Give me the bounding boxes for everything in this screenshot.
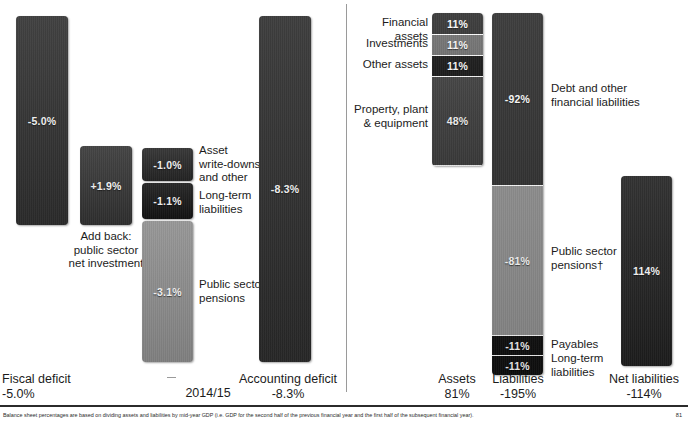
bar-assets[interactable]: 11% 11% 11% 48% <box>432 13 483 166</box>
callout-investments: Investments <box>350 37 428 51</box>
bar-long-term-liabilities-left[interactable]: -1.1% <box>142 183 193 219</box>
axis-label-fiscal-deficit: Fiscal deficit -5.0% <box>2 372 112 402</box>
bar-segment-public-sector-pensions[interactable]: -3.1% <box>142 221 193 362</box>
axis-label-liabilities: Liabilities -195% <box>484 372 552 402</box>
callout-property-plant-equipment: Property, plant & equipment <box>346 103 428 130</box>
bar-value-long-term-liabilities: -1.1% <box>153 195 181 207</box>
bar-net-liabilities[interactable]: 114% <box>621 176 672 366</box>
bar-segment-asset-writedowns[interactable]: -1.0% <box>142 148 193 181</box>
axis-label-period: 2014/15 <box>178 386 238 401</box>
bar-value-financial-assets: 11% <box>447 18 468 30</box>
axis-tick-mark <box>167 377 176 378</box>
bar-segment-net-liabilities[interactable]: 114% <box>621 176 672 366</box>
bar-value-long-term-liabilities-right: -11% <box>505 360 530 372</box>
callout-other-assets: Other assets <box>350 58 428 72</box>
bar-value-net-liabilities: 114% <box>633 265 660 277</box>
panel-divider <box>346 4 347 392</box>
bar-segment-long-term-liabilities[interactable]: -1.1% <box>142 183 193 219</box>
bar-segment-payables[interactable]: -11% <box>492 335 543 355</box>
bar-segment-fiscal-deficit[interactable]: -5.0% <box>16 16 68 225</box>
axis-label-net-liabilities: Net liabilities -114% <box>600 372 688 402</box>
bar-segment-accounting-deficit[interactable]: -8.3% <box>259 16 311 362</box>
bar-segment-investments[interactable]: 11% <box>432 34 483 55</box>
bar-segment-other-assets[interactable]: 11% <box>432 55 483 76</box>
chart-figure: -5.0% +1.9% Add back: public sector net … <box>0 0 688 425</box>
bar-segment-debt-and-other-financial-liabilities[interactable]: -92% <box>492 13 543 185</box>
footnote-text: Balance sheet percentages are based on d… <box>3 412 623 419</box>
bar-value-asset-writedowns: -1.0% <box>153 159 181 171</box>
bar-segment-net-investment[interactable]: +1.9% <box>80 146 132 225</box>
bar-accounting-deficit[interactable]: -8.3% <box>259 16 311 362</box>
bar-value-property-plant-equipment: 48% <box>447 115 469 127</box>
callout-add-back-net-investment: Add back: public sector net investment <box>66 230 146 271</box>
bar-value-debt-and-other: -92% <box>505 93 530 105</box>
bar-value-investments: 11% <box>447 39 468 51</box>
bar-value-accounting-deficit: -8.3% <box>271 183 299 195</box>
bar-value-fiscal-deficit: -5.0% <box>28 115 56 127</box>
bar-asset-writedowns[interactable]: -1.0% <box>142 148 193 181</box>
bar-liabilities[interactable]: -92% -81% -11% -11% <box>492 13 543 375</box>
page-number: 81 <box>676 412 682 418</box>
bar-segment-public-sector-pensions-right[interactable]: -81% <box>492 185 543 335</box>
bar-value-other-assets: 11% <box>447 60 468 72</box>
bar-fiscal-deficit[interactable]: -5.0% <box>16 16 68 225</box>
bar-value-net-investment: +1.9% <box>90 180 121 192</box>
bar-value-public-sector-pensions-right: -81% <box>505 255 530 267</box>
callout-debt-and-other-financial-liabilities: Debt and other financial liabilities <box>551 82 669 109</box>
bar-value-payables: -11% <box>505 340 530 352</box>
bar-segment-financial-assets[interactable]: 11% <box>432 13 483 34</box>
bar-add-back-net-investment[interactable]: +1.9% <box>80 146 132 225</box>
bar-segment-property-plant-equipment[interactable]: 48% <box>432 76 483 165</box>
bar-value-public-sector-pensions: -3.1% <box>153 286 181 298</box>
axis-label-accounting-deficit: Accounting deficit -8.3% <box>232 372 344 402</box>
footnote-rule <box>0 405 688 407</box>
bar-public-sector-pensions-left[interactable]: -3.1% <box>142 221 193 362</box>
axis-label-assets: Assets 81% <box>424 372 490 402</box>
